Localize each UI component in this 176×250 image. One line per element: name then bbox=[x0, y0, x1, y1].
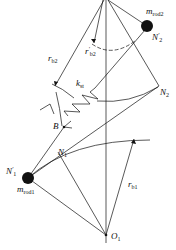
tooth-profile-2 bbox=[40, 104, 54, 114]
line-n2prime-kst bbox=[95, 30, 145, 88]
line-n2-n1prime bbox=[28, 86, 159, 178]
label-r-b1: rb1 bbox=[128, 180, 138, 190]
line-o2-mrod2 bbox=[108, 0, 147, 26]
arrow-rb2-prime-icon bbox=[91, 39, 96, 43]
line-o2-rb2 bbox=[55, 0, 104, 86]
label-n1-prime: N′1 bbox=[6, 166, 16, 177]
point-b bbox=[63, 126, 66, 129]
label-k-st: kst bbox=[76, 79, 84, 89]
tooth-tick-b2 bbox=[64, 121, 71, 127]
label-m-rod2: mrod2 bbox=[146, 7, 164, 17]
spring-kst bbox=[64, 88, 98, 116]
label-b: B bbox=[53, 122, 59, 131]
label-r-b2-prime: r′b2 bbox=[85, 46, 96, 57]
point-o1 bbox=[105, 234, 108, 237]
label-r-b2: rb2 bbox=[48, 54, 58, 64]
line-n1-o1 bbox=[58, 152, 106, 235]
gear-mesh-diagram bbox=[0, 0, 176, 250]
label-n2-prime: N′2 bbox=[152, 32, 162, 43]
label-n1: N1 bbox=[58, 148, 67, 158]
label-o1: O1 bbox=[111, 232, 121, 242]
line-n1prime-o1 bbox=[28, 178, 106, 235]
label-m-rod1: mrod1 bbox=[17, 185, 35, 195]
arrow-rb1-icon bbox=[131, 139, 136, 144]
line-o2-rb2-prime bbox=[94, 0, 103, 43]
mass-rod1 bbox=[22, 172, 34, 184]
mass-rod2 bbox=[141, 20, 153, 32]
label-n2: N2 bbox=[160, 88, 169, 98]
